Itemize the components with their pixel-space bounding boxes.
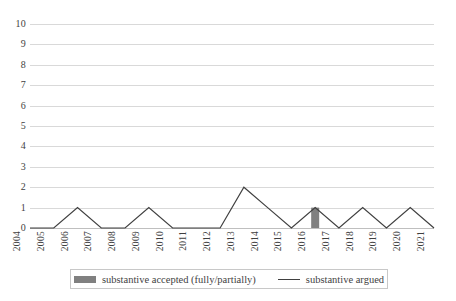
y-tick-label: 10 — [16, 19, 26, 29]
legend-item-label: substantive accepted (fully/partially) — [102, 274, 256, 285]
y-tick-label: 9 — [21, 39, 26, 49]
y-tick-label: 6 — [21, 101, 26, 111]
y-axis: 012345678910 — [0, 24, 26, 228]
chart-figure: 012345678910 200420052006200720082009201… — [0, 0, 456, 301]
y-tick-label: 5 — [21, 121, 26, 131]
legend-item-substantive-argued: substantive argued — [278, 274, 384, 285]
line-swatch-icon — [278, 279, 300, 280]
series-layer — [30, 24, 434, 228]
y-tick-label: 4 — [21, 141, 26, 151]
x-tick-label: 2021 — [416, 231, 452, 251]
y-tick-label: 3 — [21, 162, 26, 172]
y-tick-label: 2 — [21, 182, 26, 192]
bar-swatch-icon — [74, 276, 96, 283]
legend-item-label: substantive argued — [306, 274, 384, 285]
y-tick-label: 1 — [21, 203, 26, 213]
x-axis: 2004200520062007200820092010201120122013… — [30, 231, 434, 267]
chart-legend: substantive accepted (fully/partially) s… — [70, 269, 388, 289]
legend-item-substantive-accepted: substantive accepted (fully/partially) — [74, 274, 256, 285]
y-tick-label: 7 — [21, 80, 26, 90]
y-tick-label: 8 — [21, 60, 26, 70]
gridline — [30, 228, 434, 229]
plot-area — [30, 24, 434, 228]
line-series-substantive-argued — [30, 187, 434, 228]
